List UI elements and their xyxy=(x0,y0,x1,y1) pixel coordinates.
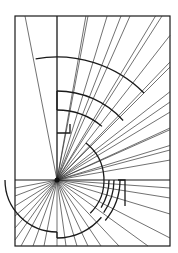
ray-line xyxy=(57,102,170,180)
ray-line xyxy=(15,180,57,228)
small-arc-3 xyxy=(105,180,120,220)
ray-line xyxy=(57,62,170,180)
ray-line xyxy=(25,16,57,180)
ray-line xyxy=(21,180,57,246)
ray-line xyxy=(57,35,170,180)
lower-left-arc xyxy=(5,180,57,232)
ray-line xyxy=(15,180,57,196)
step-connector xyxy=(57,124,70,133)
radial-diagram xyxy=(0,0,178,253)
arcs xyxy=(5,57,144,238)
ray-line xyxy=(15,180,57,240)
ray-line xyxy=(57,180,101,246)
axes xyxy=(15,16,170,183)
ray-line xyxy=(57,180,119,246)
center-point xyxy=(55,178,60,183)
ray-line xyxy=(57,16,130,180)
inner-upper-arc xyxy=(57,110,102,126)
